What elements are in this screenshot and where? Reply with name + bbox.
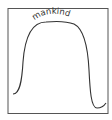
diagram: mankind xyxy=(0,0,112,120)
population-curve xyxy=(13,21,106,108)
